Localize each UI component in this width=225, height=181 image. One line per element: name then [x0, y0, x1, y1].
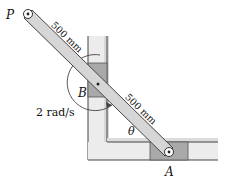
label-angular-velocity: 2 rad/s — [36, 107, 75, 118]
label-theta: θ — [128, 126, 135, 137]
label-p: P — [6, 9, 14, 21]
label-b: B — [78, 87, 87, 99]
label-a: A — [165, 166, 174, 178]
pin-b — [97, 83, 100, 86]
mechanism-diagram — [0, 0, 225, 181]
